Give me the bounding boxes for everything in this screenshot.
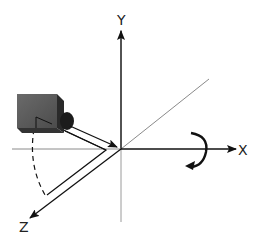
z-axis-label: Z — [19, 219, 29, 235]
rotation-arrow-icon — [185, 133, 206, 170]
z-axis — [30, 149, 121, 218]
rotation-arc-dashed — [32, 129, 45, 195]
coordinate-diagram: Y X Z — [0, 0, 264, 239]
x-axis-label: X — [238, 142, 248, 158]
diagonal-axis-line — [121, 79, 209, 149]
camera-icon — [17, 94, 74, 133]
y-axis-label: Y — [116, 12, 126, 28]
view-direction-arrow-parallel — [65, 131, 106, 150]
